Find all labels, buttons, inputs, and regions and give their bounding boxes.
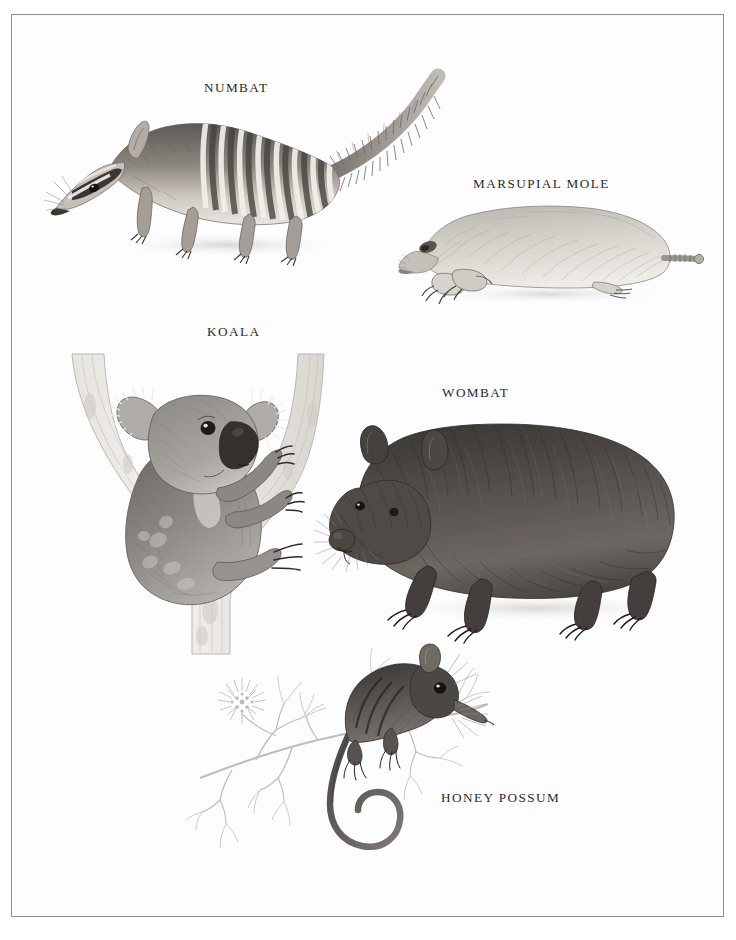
- numbat-tail: [330, 76, 440, 193]
- honey-possum-head: [410, 666, 459, 718]
- figure-label-numbat: NUMBAT: [204, 80, 268, 96]
- mole-tail: [664, 254, 704, 264]
- figure-marsupial-mole: [398, 190, 708, 310]
- figure-koala: [62, 336, 352, 656]
- figure-label-marsupial-mole: MARSUPIAL MOLE: [473, 176, 610, 192]
- figure-label-honey-possum: HONEY POSSUM: [441, 790, 560, 806]
- figure-label-koala: KOALA: [207, 324, 260, 340]
- figure-honey-possum: [196, 618, 496, 868]
- honey-possum-flower-cluster: [218, 678, 276, 736]
- figure-wombat: [326, 396, 716, 636]
- figure-label-wombat: WOMBAT: [442, 385, 509, 401]
- illustration-plate: NUMBAT: [0, 0, 736, 940]
